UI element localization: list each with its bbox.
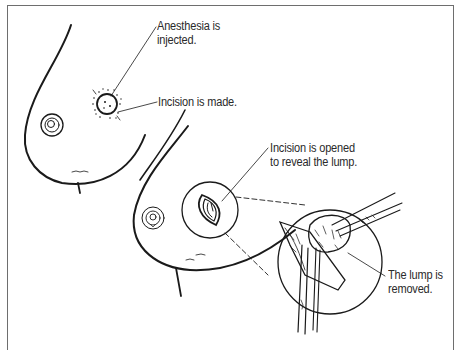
leader-incision-made: [118, 102, 157, 112]
label-incision-opened-line-2: to reveal the lump.: [270, 155, 357, 169]
label-lump-removed-line-1: The lump is: [388, 268, 443, 282]
label-anesthesia-line-1: Anesthesia is: [157, 19, 220, 33]
leader-anesthesia: [111, 27, 156, 96]
label-lump-removed-line-2: removed.: [388, 282, 443, 296]
lump-injection-site: [92, 88, 122, 120]
label-incision-made: Incision is made.: [158, 95, 237, 109]
leader-lump-removed: [348, 253, 385, 276]
zoom-line-top: [236, 197, 305, 205]
breast-1: [25, 25, 185, 193]
lump-removal-inset: [278, 193, 402, 334]
label-anesthesia-line-2: injected.: [157, 33, 220, 47]
leader-incision-opened: [222, 148, 268, 201]
label-incision-opened-line-1: Incision is opened: [270, 141, 357, 155]
label-incision-opened: Incision is opened to reveal the lump.: [270, 141, 357, 169]
nipple-1: [41, 114, 63, 136]
label-anesthesia: Anesthesia is injected.: [157, 19, 220, 47]
nipple-2: [142, 207, 164, 229]
incision-inset: [182, 182, 238, 238]
label-lump-removed: The lump is removed.: [388, 268, 443, 296]
